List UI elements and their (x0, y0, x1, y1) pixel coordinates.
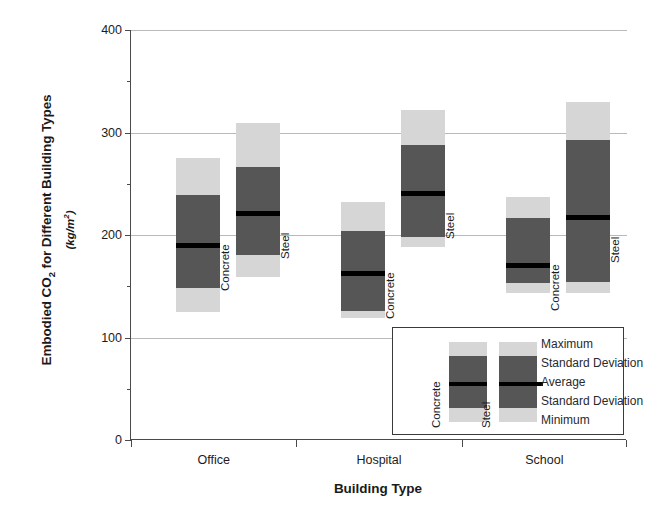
y-axis-minor-tick (127, 184, 131, 185)
bar-series-label: Steel (279, 233, 291, 259)
average-line (236, 211, 280, 216)
legend-entry-label: Standard Deviation (541, 394, 643, 408)
chart-figure: Embodied CO2 for Different Building Type… (0, 0, 658, 517)
bar-concrete-school (506, 197, 550, 293)
y-axis-tick (125, 30, 131, 31)
legend-entry-label: Average (541, 375, 585, 389)
y-gridline (131, 30, 627, 31)
bar-concrete-office (176, 158, 220, 312)
chart-legend: ConcreteSteelMaximumStandard DeviationAv… (392, 327, 624, 435)
bar-series-label: Steel (444, 213, 456, 239)
bar-series-label: Steel (609, 236, 621, 262)
standard-deviation-band (506, 218, 550, 284)
y-axis-minor-tick (127, 81, 131, 82)
bar-steel-school (566, 102, 610, 294)
x-axis-tick (296, 440, 297, 447)
bar-concrete-hospital (341, 202, 385, 318)
y-axis-tick-label: 0 (115, 433, 122, 447)
bar-steel-hospital (401, 110, 445, 247)
x-axis-category-label: Office (197, 453, 229, 467)
y-axis-minor-tick (127, 389, 131, 390)
average-line (341, 271, 385, 276)
x-axis-title: Building Type (130, 481, 626, 496)
legend-sample-label: Steel (480, 402, 492, 428)
bar-series-label: Concrete (219, 245, 231, 292)
y-axis-tick (125, 235, 131, 236)
legend-sample-steel (499, 342, 537, 422)
y-axis-title-units: (kg/m2) (60, 211, 77, 250)
average-line (401, 191, 445, 196)
bar-series-label: Concrete (384, 272, 396, 319)
y-axis-minor-tick (127, 286, 131, 287)
bar-series-label: Concrete (549, 264, 561, 311)
y-axis-tick-label: 400 (101, 23, 122, 37)
x-axis-tick (131, 440, 132, 447)
y-axis-title: Embodied CO2 for Different Building Type… (0, 0, 66, 460)
y-gridline (131, 133, 627, 134)
bar-steel-office (236, 123, 280, 277)
legend-entry-label: Maximum (541, 337, 593, 351)
x-axis-tick (462, 440, 463, 447)
legend-entry-label: Minimum (541, 413, 590, 427)
x-axis-category-label: School (525, 453, 563, 467)
standard-deviation-band (566, 140, 610, 282)
legend-sample-label: Concrete (430, 381, 442, 428)
y-axis-tick-label: 300 (101, 126, 122, 140)
legend-average-line (499, 382, 537, 386)
y-axis-tick-label: 100 (101, 331, 122, 345)
standard-deviation-band (176, 195, 220, 288)
y-axis-tick-label: 200 (101, 228, 122, 242)
x-axis-tick (626, 440, 627, 447)
average-line (176, 243, 220, 248)
legend-entry-label: Standard Deviation (541, 356, 643, 370)
y-axis-tick (125, 133, 131, 134)
average-line (566, 215, 610, 220)
x-axis-category-label: Hospital (356, 453, 401, 467)
y-axis-tick (125, 338, 131, 339)
y-axis-title-main: Embodied CO2 for Different Building Type… (39, 95, 60, 366)
average-line (506, 263, 550, 268)
legend-average-line (449, 382, 487, 386)
